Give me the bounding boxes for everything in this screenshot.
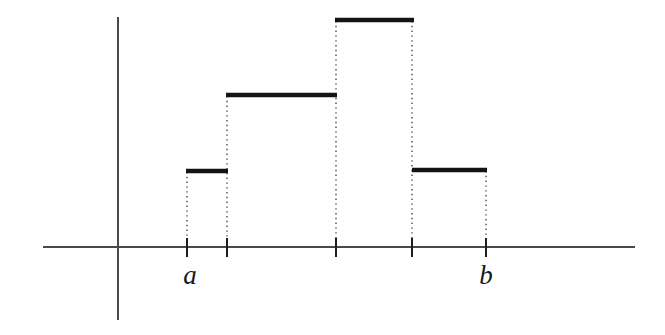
axis-label-b: b	[479, 262, 493, 289]
step-function-figure: a b	[0, 0, 665, 335]
step-function-plot	[0, 0, 665, 335]
drop-lines-group	[187, 21, 486, 247]
axis-label-a: a	[183, 262, 197, 289]
step-bars-group	[186, 20, 487, 171]
